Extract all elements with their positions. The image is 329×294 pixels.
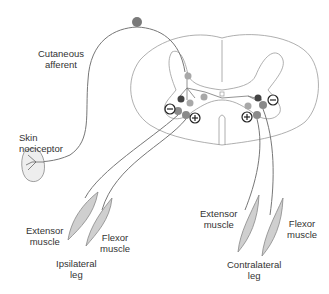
afferent-central-branch [137, 27, 185, 72]
label-line: muscle [26, 236, 64, 247]
contra-extensor-motor-neuron [253, 111, 261, 119]
ipsi-flexor-motor-neuron [182, 111, 190, 119]
contra-flexor-axon [263, 109, 273, 215]
contra-flexor-motor-neuron [259, 101, 267, 109]
ipsi-flexor-axon [102, 119, 186, 210]
dorsal-interneuron [185, 73, 192, 80]
label-ipsi-extensor: Extensor muscle [26, 225, 64, 247]
label-line: Skin [19, 132, 63, 143]
label-ipsilateral-leg: Ipsilateral leg [56, 258, 97, 280]
crossing-interneuron [201, 94, 208, 101]
label-ipsi-flexor: Flexor muscle [100, 232, 130, 254]
label-contra-extensor: Extensor muscle [200, 208, 238, 230]
label-line: nociceptor [19, 143, 63, 154]
label-line: muscle [287, 229, 317, 240]
label-line: Ipsilateral [56, 258, 97, 269]
label-line: Extensor [26, 225, 64, 236]
label-line: afferent [38, 59, 84, 70]
label-line: Extensor [200, 208, 238, 219]
afferent-cell-body [132, 17, 142, 27]
label-line: leg [56, 269, 97, 280]
ipsi-inhibitory-interneuron [178, 96, 185, 103]
label-line: Contralateral [227, 259, 281, 270]
ventral-fissure [219, 115, 225, 145]
contra-extensor-muscle [238, 195, 259, 252]
label-contralateral-leg: Contralateral leg [227, 259, 281, 281]
contra-excitatory-sign [242, 112, 252, 122]
label-line: muscle [100, 243, 130, 254]
label-line: Flexor [100, 232, 130, 243]
ipsi-extensor-axon [85, 115, 178, 198]
contra-flexor-muscle [262, 198, 283, 256]
central-canal [220, 92, 224, 96]
ipsi-excitatory-interneuron [187, 100, 194, 107]
label-line: leg [227, 270, 281, 281]
contra-excitatory-interneuron [245, 103, 252, 110]
label-line: muscle [200, 219, 238, 230]
label-skin-nociceptor: Skin nociceptor [19, 132, 63, 154]
contra-inhibitory-interneuron [255, 95, 262, 102]
label-cutaneous-afferent: Cutaneous afferent [38, 48, 84, 70]
label-contra-flexor: Flexor muscle [287, 218, 317, 240]
label-line: Flexor [287, 218, 317, 229]
contra-inhibitory-sign [268, 95, 278, 105]
ipsi-inhibitory-sign [165, 104, 175, 114]
label-line: Cutaneous [38, 48, 84, 59]
contra-extensor-axon [245, 119, 260, 210]
ipsi-excitatory-sign [190, 113, 200, 123]
